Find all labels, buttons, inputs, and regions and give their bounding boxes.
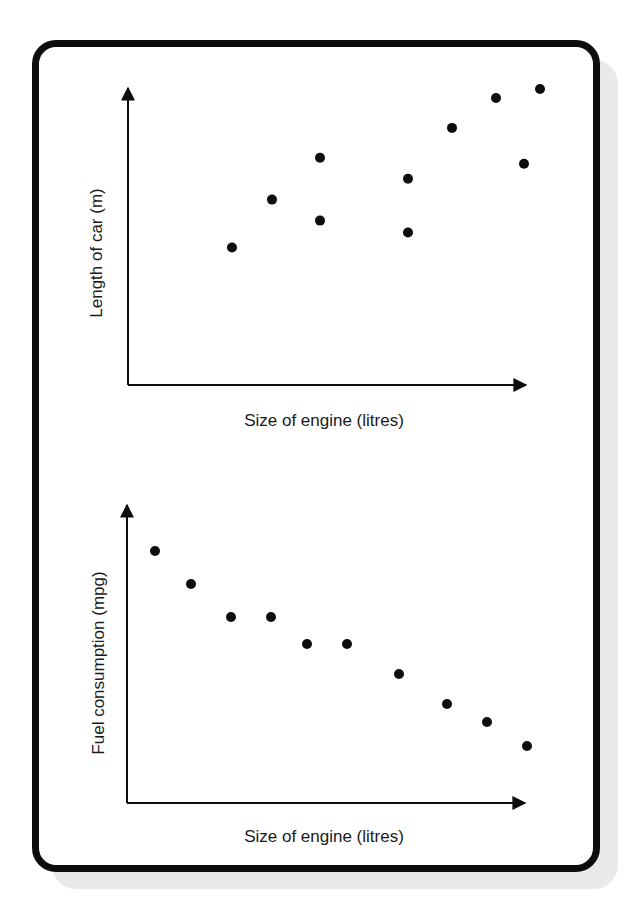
chart-1-points (227, 84, 545, 253)
data-point (226, 612, 236, 622)
chart-2-y-axis-label: Fuel consumption (mpg) (89, 571, 109, 754)
data-point (394, 669, 404, 679)
chart-1-axes (128, 88, 526, 385)
data-point (519, 159, 529, 169)
data-point (315, 153, 325, 163)
data-point (267, 195, 277, 205)
chart-2-x-axis-label: Size of engine (litres) (244, 827, 404, 847)
data-point (186, 579, 196, 589)
data-point (227, 243, 237, 253)
data-point (315, 216, 325, 226)
data-point (442, 699, 452, 709)
data-point (342, 639, 352, 649)
charts-canvas (0, 0, 628, 910)
data-point (522, 741, 532, 751)
chart-2-points (150, 546, 532, 751)
data-point (266, 612, 276, 622)
data-point (403, 228, 413, 238)
chart-2-axes (127, 505, 525, 803)
data-point (482, 717, 492, 727)
chart-1-x-axis-label: Size of engine (litres) (244, 411, 404, 431)
data-point (403, 174, 413, 184)
data-point (447, 123, 457, 133)
chart-1-y-axis-label: Length of car (m) (87, 188, 107, 317)
data-point (491, 93, 501, 103)
data-point (302, 639, 312, 649)
data-point (150, 546, 160, 556)
data-point (535, 84, 545, 94)
